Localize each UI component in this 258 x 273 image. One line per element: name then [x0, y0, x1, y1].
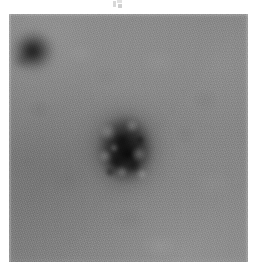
top-edge-artifact-mark: [113, 0, 123, 8]
micrograph-page: [0, 0, 258, 273]
electron-micrograph-image: [9, 14, 248, 262]
artifact-mark-segment: [117, 0, 122, 3]
plate-right-seam: [246, 14, 248, 262]
artifact-mark-segment: [118, 4, 122, 8]
plate-left-seam: [9, 14, 11, 262]
artifact-mark-segment: [113, 1, 116, 7]
film-grain-texture-secondary: [9, 14, 248, 262]
plate-top-seam: [9, 14, 248, 16]
